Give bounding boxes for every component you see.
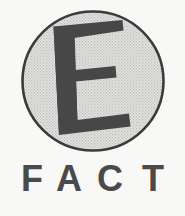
wordmark-fact: F A C T bbox=[0, 160, 185, 200]
wordmark-letter-a: A bbox=[56, 160, 82, 199]
wordmark-letter-f: F bbox=[21, 160, 43, 199]
circle-letter-e-emblem bbox=[19, 8, 167, 154]
logo-image: F A C T bbox=[0, 0, 185, 216]
wordmark-letter-c: C bbox=[97, 160, 123, 199]
wordmark-letter-t: T bbox=[142, 160, 164, 199]
